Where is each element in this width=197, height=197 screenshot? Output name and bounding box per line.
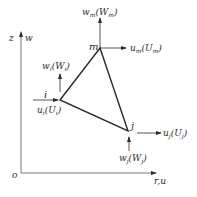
triangle-element xyxy=(60,48,128,131)
node-i-label: i xyxy=(44,90,47,100)
u-j-label: uj(Uj) xyxy=(163,129,187,139)
u-i-label: ui(Ui) xyxy=(37,106,61,116)
r-u-axis-label: r,u xyxy=(154,177,166,186)
w-m-label: wm(Wm) xyxy=(82,8,117,18)
z-axis-label: z xyxy=(9,34,14,43)
diagram-lines xyxy=(0,0,197,197)
node-m-label: m xyxy=(89,42,98,52)
node-j-label: j xyxy=(131,121,134,131)
origin-label: o xyxy=(12,171,17,180)
u-m-label: um(Um) xyxy=(130,44,162,54)
w-axis-label: w xyxy=(25,34,33,43)
element-diagram: z w o r,u m i j wm(Wm) um(Um) wi(Wi) ui(… xyxy=(0,0,197,197)
w-j-label: wj(Wj) xyxy=(119,154,147,164)
w-i-label: wi(Wi) xyxy=(42,62,70,72)
